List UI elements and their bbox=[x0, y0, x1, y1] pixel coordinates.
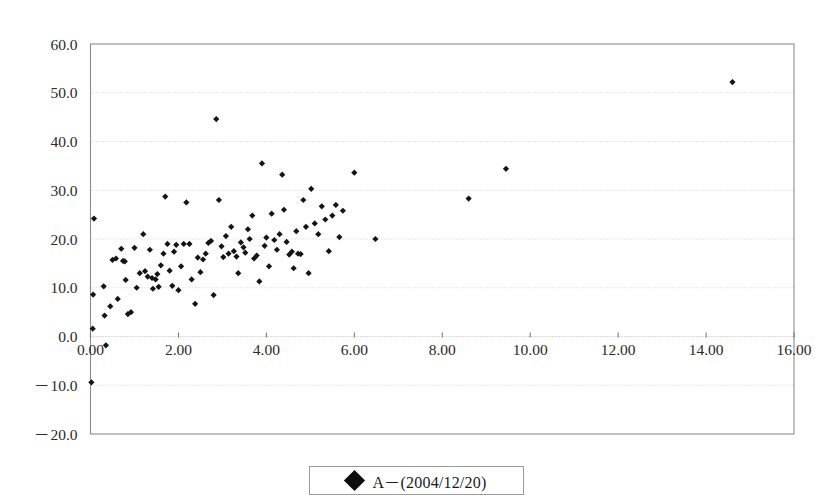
data-point bbox=[326, 248, 332, 254]
data-point bbox=[233, 253, 239, 259]
y-tick-label: －10.0 bbox=[34, 377, 77, 394]
x-tick-label: 16.00 bbox=[777, 341, 812, 358]
data-point bbox=[150, 286, 156, 292]
y-axis-labels: －20.0－10.00.010.020.030.040.050.060.0 bbox=[34, 36, 77, 443]
data-point bbox=[263, 234, 269, 240]
data-point bbox=[171, 249, 177, 255]
x-tick-label: 4.00 bbox=[253, 341, 280, 358]
filled-diamond-icon bbox=[343, 470, 364, 491]
data-point bbox=[154, 271, 160, 277]
data-point bbox=[466, 195, 472, 201]
data-point bbox=[303, 224, 309, 230]
data-point bbox=[220, 254, 226, 260]
data-point bbox=[162, 193, 168, 199]
y-tick-label: 30.0 bbox=[50, 182, 77, 199]
data-point bbox=[245, 226, 251, 232]
data-point bbox=[223, 233, 229, 239]
data-point bbox=[276, 231, 282, 237]
data-point bbox=[101, 312, 107, 318]
data-point bbox=[228, 224, 234, 230]
data-point bbox=[218, 243, 224, 249]
data-point bbox=[189, 276, 195, 282]
data-point bbox=[340, 208, 346, 214]
plot-area-svg: －20.0－10.00.010.020.030.040.050.060.0 0.… bbox=[0, 0, 833, 495]
y-tick-label: 0.0 bbox=[58, 328, 78, 345]
x-tick-label: 14.00 bbox=[689, 341, 724, 358]
data-point bbox=[256, 278, 262, 284]
y-tick-label: 10.0 bbox=[50, 279, 77, 296]
data-point bbox=[158, 262, 164, 268]
data-point bbox=[131, 245, 137, 251]
data-point bbox=[271, 237, 277, 243]
data-point bbox=[167, 268, 173, 274]
data-point bbox=[164, 241, 170, 247]
data-point bbox=[329, 213, 335, 219]
data-point bbox=[88, 379, 94, 385]
data-point bbox=[240, 244, 246, 250]
data-point bbox=[140, 231, 146, 237]
data-point bbox=[216, 197, 222, 203]
data-point bbox=[115, 296, 121, 302]
data-point bbox=[238, 239, 244, 245]
data-points bbox=[88, 79, 735, 386]
data-point bbox=[503, 166, 509, 172]
data-point bbox=[107, 303, 113, 309]
data-point bbox=[266, 263, 272, 269]
data-point bbox=[183, 199, 189, 205]
x-tick-label: 12.00 bbox=[601, 341, 636, 358]
data-point bbox=[173, 242, 179, 248]
data-point bbox=[315, 231, 321, 237]
data-point bbox=[225, 251, 231, 257]
data-point bbox=[203, 251, 209, 257]
data-point bbox=[259, 160, 265, 166]
data-point bbox=[211, 292, 217, 298]
data-point bbox=[279, 172, 285, 178]
data-point bbox=[101, 283, 107, 289]
data-point bbox=[169, 283, 175, 289]
data-point bbox=[269, 211, 275, 217]
x-tick-label: 10.00 bbox=[513, 341, 548, 358]
data-point bbox=[200, 256, 206, 262]
y-tick-label: 60.0 bbox=[50, 36, 77, 53]
data-point bbox=[118, 246, 124, 252]
data-point bbox=[308, 186, 314, 192]
data-point bbox=[197, 269, 203, 275]
data-point bbox=[249, 213, 255, 219]
data-point bbox=[372, 236, 378, 242]
data-point bbox=[291, 265, 297, 271]
scatter-chart: －20.0－10.00.010.020.030.040.050.060.0 0.… bbox=[0, 0, 833, 495]
data-point bbox=[305, 270, 311, 276]
data-point bbox=[142, 268, 148, 274]
data-point bbox=[178, 263, 184, 269]
data-point bbox=[231, 248, 237, 254]
data-point bbox=[284, 239, 290, 245]
y-tick-label: 40.0 bbox=[50, 133, 77, 150]
data-point bbox=[235, 270, 241, 276]
data-point bbox=[242, 250, 248, 256]
data-point bbox=[300, 197, 306, 203]
x-tick-label: 2.00 bbox=[165, 341, 192, 358]
data-point bbox=[293, 228, 299, 234]
data-point bbox=[91, 215, 97, 221]
x-axis-labels: 0.002.004.006.008.0010.0012.0014.0016.00 bbox=[77, 341, 812, 358]
data-point bbox=[156, 284, 162, 290]
data-point bbox=[322, 216, 328, 222]
data-point bbox=[160, 251, 166, 257]
data-point bbox=[333, 202, 339, 208]
x-tick-label: 6.00 bbox=[341, 341, 368, 358]
y-tick-label: －20.0 bbox=[34, 426, 77, 443]
y-tick-label: 20.0 bbox=[50, 231, 77, 248]
data-point bbox=[134, 285, 140, 291]
x-tick-label: 8.00 bbox=[429, 341, 456, 358]
x-tick-label: 0.00 bbox=[77, 341, 104, 358]
data-point bbox=[195, 254, 201, 260]
data-point bbox=[186, 241, 192, 247]
data-point bbox=[312, 220, 318, 226]
data-point bbox=[213, 116, 219, 122]
data-point bbox=[192, 301, 198, 307]
data-point bbox=[351, 170, 357, 176]
data-point bbox=[319, 203, 325, 209]
data-point bbox=[274, 247, 280, 253]
data-point bbox=[147, 247, 153, 253]
y-tick-label: 50.0 bbox=[50, 84, 77, 101]
